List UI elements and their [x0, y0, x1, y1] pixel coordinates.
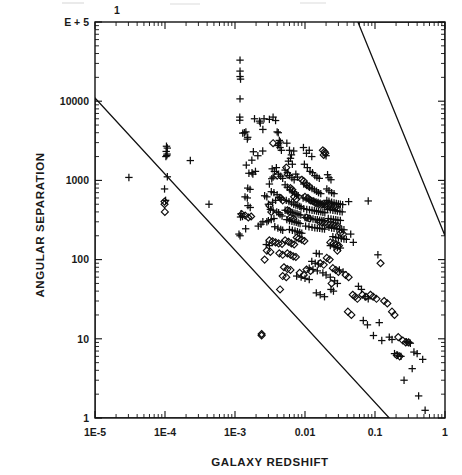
plus-marker — [419, 356, 426, 363]
diamond-marker — [266, 202, 273, 209]
plus-marker — [259, 147, 266, 154]
plus-marker — [286, 147, 293, 154]
y-tick-label: 10000 — [60, 95, 89, 107]
diamond-marker — [161, 208, 168, 215]
y-tick-label: 1000 — [66, 174, 90, 186]
y-tick-label: 100 — [71, 253, 89, 265]
diamond-marker — [348, 311, 355, 318]
plus-marker — [365, 197, 372, 204]
plus-marker — [242, 225, 249, 232]
plus-marker — [254, 152, 261, 159]
plus-marker — [163, 152, 170, 159]
x-tick-label: 0.01 — [295, 426, 316, 438]
plus-marker — [360, 317, 367, 324]
plus-marker — [283, 139, 290, 146]
diamond-marker — [377, 260, 384, 267]
x-tick-label: 1E-5 — [84, 426, 106, 438]
plus-marker — [421, 407, 428, 414]
plus-marker — [370, 332, 377, 339]
plus-marker — [313, 289, 320, 296]
plus-marker — [400, 377, 407, 384]
plus-marker — [415, 392, 422, 399]
plus-marker — [347, 230, 354, 237]
plus-marker — [257, 119, 264, 126]
diamond-marker — [276, 250, 283, 257]
x-tick-label: 0.1 — [368, 426, 383, 438]
y-axis-top-exponent-mark: 1 — [114, 4, 120, 16]
plus-marker — [248, 156, 255, 163]
diamond-marker — [277, 286, 284, 293]
plus-marker — [125, 174, 132, 181]
plus-marker — [306, 276, 313, 283]
plus-marker — [235, 230, 242, 237]
plus-marker — [275, 129, 282, 136]
diamond-marker — [283, 274, 290, 281]
plus-marker — [205, 201, 212, 208]
x-tick-label: 1 — [442, 426, 448, 438]
plus-marker — [244, 135, 251, 142]
y-tick-label: 1 — [83, 412, 89, 424]
tick-labels-group: 1E-51E-41E-30.010.11110100100010000E + 5 — [60, 16, 448, 438]
diamond-marker — [161, 201, 168, 208]
plus-marker — [236, 95, 243, 102]
diamond-marker — [344, 308, 351, 315]
plus-marker — [161, 185, 168, 192]
lower-left-excluded-region — [95, 98, 389, 418]
plus-marker — [378, 337, 385, 344]
y-tick-label: 10 — [77, 333, 89, 345]
diamond-marker — [261, 256, 268, 263]
scatter-chart-figure: 1E-51E-41E-30.010.11110100100010000E + 5… — [0, 0, 462, 475]
y-axis-title: ANGULAR SEPARATION — [34, 152, 46, 297]
plus-marker — [236, 56, 243, 63]
diamond-marker — [320, 261, 327, 268]
x-axis-title: GALAXY REDSHIFT — [211, 456, 328, 468]
plus-marker — [273, 128, 280, 135]
plus-marker — [376, 319, 383, 326]
diamond-marker — [279, 273, 286, 280]
scan-noise-artifact — [62, 2, 326, 5]
x-tick-label: 1E-3 — [224, 426, 246, 438]
plus-marker — [243, 161, 250, 168]
x-tick-label: 1E-4 — [154, 426, 176, 438]
data-points-group — [125, 56, 429, 414]
plus-marker — [374, 251, 381, 258]
diamond-marker — [161, 198, 168, 205]
plus-marker — [308, 258, 315, 265]
plot-svg-canvas: 1E-51E-41E-30.010.11110100100010000E + 5… — [0, 0, 462, 475]
diamond-marker — [267, 248, 274, 255]
plus-marker — [301, 275, 308, 282]
diamond-markers — [161, 140, 412, 360]
plus-marker — [250, 148, 257, 155]
plus-marker — [259, 126, 266, 133]
plus-marker — [409, 365, 416, 372]
plus-marker — [236, 232, 243, 239]
plus-marker — [364, 321, 371, 328]
y-tick-label: E + 5 — [64, 16, 89, 28]
plus-marker — [350, 239, 357, 246]
plus-markers — [125, 56, 429, 414]
upper-right-excluded-region — [358, 22, 445, 236]
plus-marker — [187, 157, 194, 164]
